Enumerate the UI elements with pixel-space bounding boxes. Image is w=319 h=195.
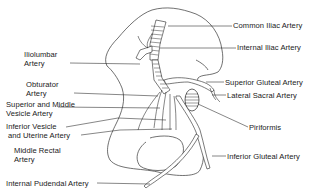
label-inferior-vesicle-line1: Inferior Vesicle	[6, 122, 70, 131]
label-middle-rectal-artery: Middle Rectal Artery	[14, 146, 61, 164]
obturator-foramen	[137, 136, 183, 171]
label-internal-iliac-artery: Internal Iliac Artery	[237, 43, 301, 52]
sacrum-contour	[196, 60, 208, 70]
internal-iliac-vessel	[152, 60, 170, 94]
label-superior-middle-vesicle-line1: Superior and Middle	[6, 100, 75, 109]
label-inferior-vesicle-uterine-artery: Inferior Vesicle and Uterine Artery	[6, 122, 70, 140]
label-superior-middle-vesicle-line2: Vesicle Artery	[6, 109, 75, 118]
label-iliolumbar-artery: Iliolumbar Artery	[24, 50, 57, 68]
label-obturator-line1: Obturator	[26, 80, 59, 89]
pelvis-outline	[106, 8, 223, 86]
label-iliolumbar-line1: Iliolumbar	[24, 50, 57, 59]
pelvic-artery-diagram: Common Iliac Artery Internal Iliac Arter…	[0, 0, 319, 195]
label-superior-middle-vesicle-artery: Superior and Middle Vesicle Artery	[6, 100, 75, 118]
label-inferior-gluteal-artery: Inferior Gluteal Artery	[227, 152, 300, 161]
label-superior-gluteal-artery: Superior Gluteal Artery	[225, 78, 303, 87]
label-lateral-sacral-artery: Lateral Sacral Artery	[227, 91, 297, 100]
internal-pudendal-vessel	[144, 134, 199, 188]
label-iliolumbar-line2: Artery	[24, 59, 57, 68]
label-obturator-artery: Obturator Artery	[26, 80, 59, 98]
label-common-iliac-artery: Common Iliac Artery	[233, 21, 302, 30]
label-internal-pudendal-artery: Internal Pudendal Artery	[6, 179, 89, 188]
label-inferior-vesicle-line2: and Uterine Artery	[6, 131, 70, 140]
label-middle-rectal-line1: Middle Rectal	[14, 146, 61, 155]
label-piriformis: Piriformis	[249, 123, 281, 132]
label-obturator-line2: Artery	[26, 89, 59, 98]
iliolumbar-vessel	[136, 34, 152, 60]
common-iliac-vessel	[150, 20, 166, 60]
label-middle-rectal-line2: Artery	[14, 155, 61, 164]
